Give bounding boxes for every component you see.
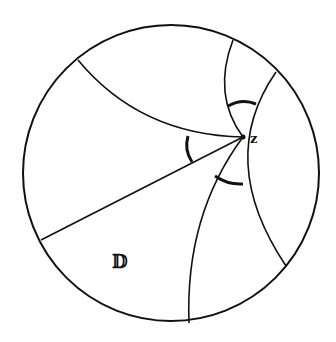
point-z-label: z — [250, 131, 257, 146]
angle-mark-top — [228, 101, 256, 106]
angle-mark-bottom — [215, 176, 243, 184]
hyperbolic-disk-diagram: z 𝔻 — [0, 0, 336, 342]
angle-mark-left — [187, 136, 192, 162]
geodesic-lower — [189, 137, 243, 323]
geodesic-right — [248, 72, 286, 266]
disk-label: 𝔻 — [112, 251, 128, 272]
point-z-marker — [241, 135, 246, 140]
geodesic-top-small — [225, 40, 243, 137]
geodesic-upper-left — [78, 60, 243, 137]
